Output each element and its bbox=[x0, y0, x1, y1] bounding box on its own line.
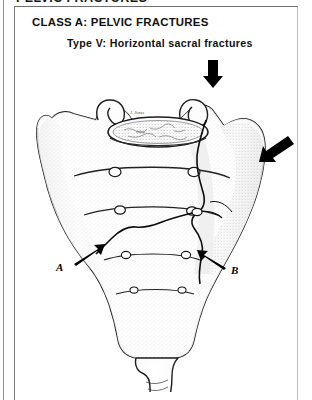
page-subtitle: Type V: Horizontal sacral fractures bbox=[67, 37, 253, 49]
sacrum-figure: J. Jones A B bbox=[14, 52, 298, 392]
page-title: CLASS A: PELVIC FRACTURES bbox=[32, 16, 208, 28]
page-edge-rule bbox=[3, 0, 4, 400]
label-b-text: B bbox=[230, 264, 238, 276]
s1-vertebral-body bbox=[108, 117, 208, 147]
coccyx bbox=[135, 358, 178, 392]
label-a-text: A bbox=[55, 261, 63, 273]
sacrum-illustration: J. Jones A B bbox=[14, 52, 298, 392]
artist-signature: J. Jones bbox=[130, 110, 144, 115]
running-header: PELVIC FRACTURES bbox=[16, 0, 147, 5]
downward-force-arrow bbox=[203, 60, 223, 88]
fracture-intersection-node bbox=[192, 208, 202, 215]
